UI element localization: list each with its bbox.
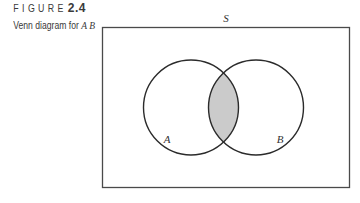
set-a-label: A <box>163 133 171 145</box>
universe-label: S <box>223 12 229 24</box>
set-b-label: B <box>277 133 284 145</box>
venn-diagram: S A B <box>0 0 360 203</box>
